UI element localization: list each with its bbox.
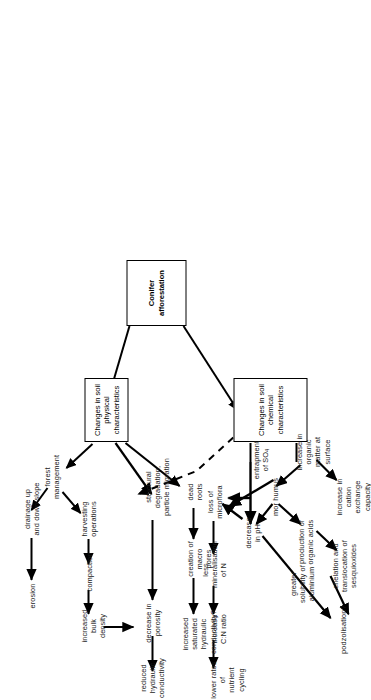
- node-compaction: compaction: [84, 552, 93, 592]
- node-entrapment-of-so4: entrapment of SO4: [242, 438, 272, 482]
- entrapment-subscript: 4: [263, 449, 269, 452]
- edge-ph-to-microflora: [222, 504, 242, 519]
- box-conifer-afforestation[interactable]: Conifer afforestation: [126, 260, 186, 326]
- node-decrease-in-ph: decrease in pH: [243, 516, 261, 550]
- edge-physical-to-forest-management: [66, 444, 92, 468]
- node-podzolisation: podzolisation?: [338, 610, 347, 654]
- node-forest-management: forest management: [42, 454, 60, 500]
- node-increase-cn-ratio: increase C:N ratio: [209, 612, 227, 646]
- node-mor-humus: mor humus: [270, 478, 279, 516]
- node-structural-degradation: structural degradation, particle migrati…: [143, 450, 171, 524]
- node-chelation-translocation-sesquioxides: chelation and translocation of sesquioxi…: [330, 538, 358, 594]
- edge-root-to-chemical: [183, 326, 237, 410]
- node-loss-of-microflora: loss of microflora: [205, 484, 223, 520]
- node-greater-solubility-aluminium: greater solubility of aluminium: [288, 562, 316, 606]
- node-production-organic-acids: production of organic acids: [296, 518, 314, 566]
- node-harvesting-operations: harvesting operations: [79, 496, 97, 542]
- edge-forest-to-harvesting: [62, 492, 80, 513]
- node-decrease-in-porosity: decrease in porosity: [143, 602, 161, 644]
- node-less-mineralisation-of-n: less mineralisation of N: [200, 552, 228, 588]
- node-lower-rates-nutrient-cycling: lower rates of nutrient cycling: [208, 660, 245, 700]
- node-increase-cation-exchange: increase in cation exchange capacity: [334, 468, 371, 526]
- box-changes-soil-physical[interactable]: Changes in soil physical characteristics: [84, 378, 128, 442]
- node-dead-roots: dead roots: [185, 478, 203, 506]
- node-increased-bulk-density: increased bulk density: [79, 606, 107, 646]
- node-increase-organic-matter: increase in organic matter at surface: [294, 424, 331, 480]
- node-drainage-up-down-slope: drainage up and down slope: [22, 480, 40, 538]
- node-erosion: erosion: [27, 580, 36, 612]
- entrapment-text: entrapment of SO: [251, 441, 269, 479]
- node-reduced-hydraulic-conductivity: reduced hydraulic conductivity: [138, 658, 166, 698]
